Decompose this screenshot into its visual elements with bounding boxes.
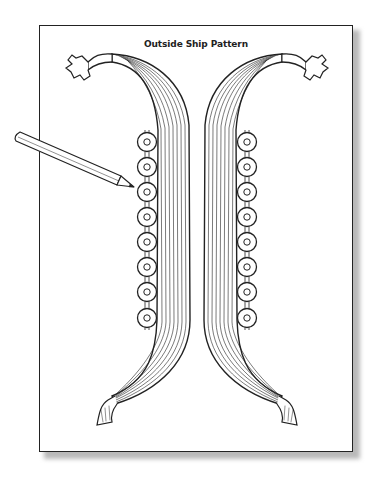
ship-pattern-illustration [0,0,380,480]
left-hull-half [66,54,190,425]
right-shield-row [238,130,257,330]
pencil-icon [15,132,134,187]
right-hull-half [204,54,328,425]
left-shield-row [138,130,157,330]
